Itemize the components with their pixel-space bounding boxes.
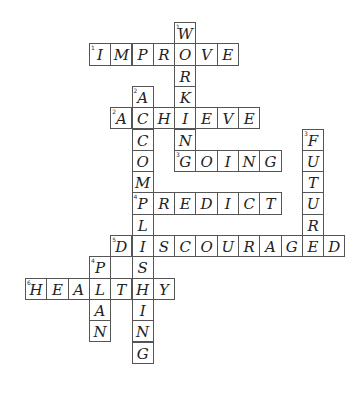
crossword-cell[interactable]: R (153, 43, 175, 65)
cell-letter: H (133, 281, 153, 299)
cell-letter: H (154, 110, 174, 128)
cell-letter: D (324, 238, 344, 256)
cell-letter: E (196, 110, 216, 128)
cell-letter: Y (154, 281, 174, 299)
cell-letter: G (260, 153, 280, 171)
crossword-cell[interactable]: N (174, 129, 196, 151)
crossword-cell[interactable]: G (132, 342, 154, 364)
crossword-cell[interactable]: 6H (25, 278, 47, 300)
cell-letter: P (90, 259, 110, 277)
cell-letter: O (175, 46, 195, 64)
crossword-cell[interactable]: T (259, 192, 281, 214)
crossword-cell[interactable]: O (174, 43, 196, 65)
crossword-cell[interactable]: H (132, 278, 154, 300)
cell-letter: A (111, 110, 131, 128)
crossword-cell[interactable]: G (259, 150, 281, 172)
crossword-cell[interactable]: A (259, 235, 281, 257)
crossword-cell[interactable]: 1W (174, 22, 196, 44)
crossword-cell[interactable]: D (323, 235, 345, 257)
crossword-cell[interactable]: 5D (110, 235, 132, 257)
crossword-cell[interactable]: U (302, 192, 324, 214)
crossword-cell[interactable]: E (46, 278, 68, 300)
cell-letter: I (218, 153, 238, 171)
cell-letter: T (303, 174, 323, 192)
cell-letter: I (133, 238, 153, 256)
crossword-cell[interactable]: G (281, 235, 303, 257)
cell-letter: T (260, 195, 280, 213)
cell-letter: E (175, 195, 195, 213)
crossword-cell[interactable]: N (238, 150, 260, 172)
crossword-cell[interactable]: 4P (132, 192, 154, 214)
cell-letter: I (90, 46, 110, 64)
crossword-cell[interactable]: I (217, 192, 239, 214)
crossword-cell[interactable]: T (302, 171, 324, 193)
crossword-cell[interactable]: A (89, 299, 111, 321)
crossword-cell[interactable]: T (110, 278, 132, 300)
crossword-cell[interactable]: C (174, 235, 196, 257)
crossword-cell[interactable]: O (195, 235, 217, 257)
crossword-cell[interactable]: R (238, 235, 260, 257)
crossword-cell[interactable]: E (195, 107, 217, 129)
crossword-cell[interactable]: C (238, 192, 260, 214)
crossword-cell[interactable]: 3F (302, 129, 324, 151)
crossword-cell[interactable]: P (132, 43, 154, 65)
crossword-cell[interactable]: H (153, 107, 175, 129)
crossword-cell[interactable]: C (132, 129, 154, 151)
crossword-cell[interactable]: A (68, 278, 90, 300)
crossword-cell[interactable]: U (302, 150, 324, 172)
crossword-cell[interactable]: C (132, 107, 154, 129)
crossword-cell[interactable]: M (132, 171, 154, 193)
crossword-cell[interactable]: O (132, 150, 154, 172)
cell-letter: G (282, 238, 302, 256)
cell-letter: S (133, 259, 153, 277)
crossword-cell[interactable]: O (195, 150, 217, 172)
crossword-cell[interactable]: E (302, 235, 324, 257)
cell-letter: R (154, 195, 174, 213)
cell-letter: C (133, 132, 153, 150)
cell-letter: C (239, 195, 259, 213)
crossword-cell[interactable]: 2A (132, 86, 154, 108)
cell-letter: G (175, 153, 195, 171)
crossword-cell[interactable]: K (174, 86, 196, 108)
cell-letter: O (196, 238, 216, 256)
cell-letter: A (69, 281, 89, 299)
cell-letter: U (303, 153, 323, 171)
crossword-cell[interactable]: U (217, 235, 239, 257)
crossword-cell[interactable]: V (195, 43, 217, 65)
crossword-cell[interactable]: I (132, 299, 154, 321)
cell-letter: M (133, 174, 153, 192)
crossword-cell[interactable]: R (302, 214, 324, 236)
cell-letter: D (196, 195, 216, 213)
cell-letter: P (133, 195, 153, 213)
crossword-cell[interactable]: V (217, 107, 239, 129)
crossword-cell[interactable]: L (89, 278, 111, 300)
cell-letter: C (133, 110, 153, 128)
crossword-cell[interactable]: 4P (89, 256, 111, 278)
crossword-cell[interactable]: E (238, 107, 260, 129)
cell-letter: E (303, 238, 323, 256)
crossword-cell[interactable]: R (153, 192, 175, 214)
crossword-cell[interactable]: M (110, 43, 132, 65)
crossword-cell[interactable]: 1I (89, 43, 111, 65)
cell-letter: A (260, 238, 280, 256)
crossword-cell[interactable]: S (153, 235, 175, 257)
crossword-cell[interactable]: I (217, 150, 239, 172)
crossword-cell[interactable]: 3G (174, 150, 196, 172)
crossword-cell[interactable]: S (132, 256, 154, 278)
crossword-cell[interactable]: Y (153, 278, 175, 300)
cell-letter: U (218, 238, 238, 256)
crossword-cell[interactable]: I (132, 235, 154, 257)
crossword-cell[interactable]: R (174, 65, 196, 87)
crossword-cell[interactable]: E (217, 43, 239, 65)
crossword-cell[interactable]: N (89, 320, 111, 342)
cell-letter: R (239, 238, 259, 256)
crossword-cell[interactable]: N (132, 320, 154, 342)
crossword-cell[interactable]: E (174, 192, 196, 214)
cell-letter: T (111, 281, 131, 299)
crossword-cell[interactable]: 2A (110, 107, 132, 129)
crossword-cell[interactable]: I (174, 107, 196, 129)
cell-letter: E (47, 281, 67, 299)
crossword-cell[interactable]: L (132, 214, 154, 236)
crossword-cell[interactable]: D (195, 192, 217, 214)
cell-letter: G (133, 345, 153, 363)
